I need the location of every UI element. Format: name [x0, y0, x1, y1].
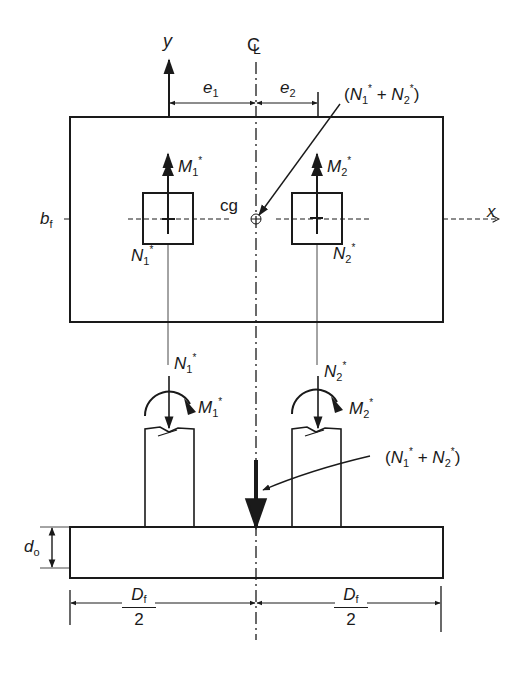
- resultant-elevation-leader: [263, 456, 370, 490]
- elev-M1-label: M1*: [198, 399, 222, 416]
- elev-M2-moment-arc-icon: [292, 390, 337, 414]
- elev-M1-moment-arc-icon: [145, 392, 190, 416]
- resultant-plan-label: (N1* + N2*): [344, 86, 419, 103]
- plan-N2-label: N2*: [333, 245, 355, 262]
- do-label: do: [24, 538, 40, 555]
- elev-N2-label: N2*: [324, 363, 346, 380]
- x-axis-label: x: [487, 203, 496, 220]
- df-right-label: Df 2: [334, 585, 368, 630]
- plan-M1-label: M1*: [178, 158, 202, 175]
- y-axis-label: y: [163, 32, 172, 50]
- column-1-moment-double-head-icon: [162, 162, 174, 176]
- cg-label: cg: [220, 197, 238, 214]
- e1-label: e1: [203, 79, 219, 96]
- plan-M2-label: M2*: [327, 158, 351, 175]
- footing-diagram: [0, 0, 519, 674]
- column-2-moment-double-head-icon: [311, 162, 323, 176]
- elev-N1-label: N1*: [174, 355, 196, 372]
- e2-label: e2: [280, 79, 296, 96]
- df-left-label: Df 2: [122, 585, 156, 630]
- column-2-elevation: [292, 427, 341, 527]
- resultant-elevation-label: (N1* + N2*): [385, 449, 460, 466]
- column-1-elevation: [145, 427, 194, 527]
- elev-M2-label: M2*: [349, 400, 373, 417]
- centerline-label: CL: [247, 36, 260, 54]
- bf-label: bf: [40, 210, 53, 227]
- plan-N1-label: N1*: [131, 247, 153, 264]
